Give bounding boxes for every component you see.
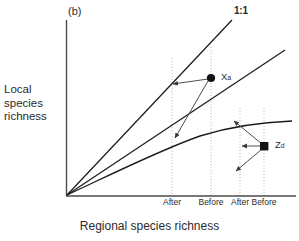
panel-label: (b): [68, 5, 81, 17]
saturating-curve: [67, 121, 292, 195]
x-axis-title: Regional species richness: [0, 219, 299, 233]
y-axis-title: Localspeciesrichness: [4, 83, 47, 124]
xa-label-subscript: a: [227, 74, 231, 81]
one-to-one-line: [67, 20, 232, 195]
xa-arrows: [173, 79, 208, 138]
xa-point-label: Xa: [221, 71, 231, 82]
y-axis-title-line-1: Local: [4, 83, 32, 95]
x-tick-label-after-1: After: [152, 197, 192, 207]
xa-point-marker: [207, 74, 215, 82]
linear-line: [67, 50, 285, 195]
one-to-one-label: 1:1: [234, 5, 248, 16]
axes: [66, 20, 296, 196]
xa-arrow-horizontal: [173, 79, 208, 84]
zd-point-label: Zd: [275, 139, 285, 150]
y-axis-title-line-3: richness: [4, 110, 47, 122]
zd-label-subscript: d: [281, 142, 285, 149]
y-axis-title-line-2: species: [4, 97, 43, 109]
xa-arrow-diagonal: [175, 81, 208, 138]
zd-arrows: [234, 121, 262, 171]
x-tick-label-before-2: Before: [244, 197, 284, 207]
zd-point-marker: [260, 142, 268, 150]
